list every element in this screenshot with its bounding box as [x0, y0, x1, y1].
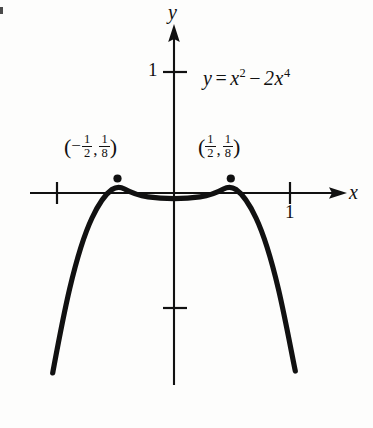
left-y-numerator: 1	[99, 133, 109, 146]
point-marker-left-maximum	[113, 174, 121, 182]
x-axis-label: x	[349, 182, 358, 202]
y-axis-label: y	[168, 2, 177, 22]
equation-exponent-four: 4	[284, 66, 291, 80]
equation-x-second: x	[275, 67, 284, 89]
right-paren-close: )	[233, 134, 240, 159]
equation-minus: −	[246, 67, 264, 89]
right-x-numerator: 1	[205, 133, 215, 146]
equation-x-first: x	[230, 67, 239, 89]
right-paren-open: (	[198, 134, 205, 159]
left-y-fraction: 18	[99, 133, 109, 160]
left-x-fraction: 12	[82, 133, 92, 160]
graph-canvas	[0, 0, 373, 428]
left-minus-sign: −	[71, 136, 81, 155]
right-x-fraction: 12	[205, 133, 215, 160]
right-y-numerator: 1	[223, 133, 233, 146]
left-comma: ,	[93, 140, 97, 159]
right-y-denominator: 8	[223, 146, 233, 160]
point-label-left-maximum: (−12,18)	[64, 134, 117, 161]
point-label-right-maximum: (12,18)	[198, 134, 240, 161]
right-x-denominator: 2	[205, 146, 215, 160]
equation-coefficient-two: 2	[264, 67, 275, 89]
equation-equals: =	[212, 67, 230, 89]
equation-label: y=x2−2x4	[203, 68, 291, 88]
left-x-denominator: 2	[82, 146, 92, 160]
left-y-denominator: 8	[99, 146, 109, 160]
left-paren-close: )	[110, 134, 117, 159]
right-y-fraction: 18	[223, 133, 233, 160]
y-tick-one-label: 1	[148, 60, 158, 79]
left-x-numerator: 1	[82, 133, 92, 146]
x-tick-one-label: 1	[285, 202, 295, 221]
equation-lhs: y	[203, 67, 212, 89]
math-figure: y x 1 1 y=x2−2x4 (−12,18) (12,18)	[0, 0, 373, 428]
right-comma: ,	[217, 140, 221, 159]
point-marker-right-maximum	[227, 174, 235, 182]
